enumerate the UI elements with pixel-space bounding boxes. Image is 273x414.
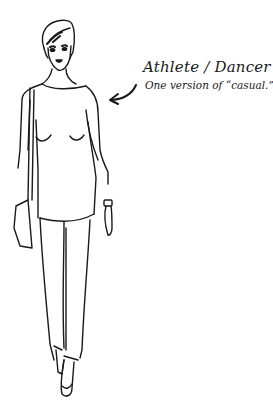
caption-block: Athlete / Dancer One version of “casual.… (143, 58, 273, 92)
hair-shape (42, 20, 74, 58)
face-shape (48, 45, 71, 70)
legs-outline (40, 218, 90, 396)
caption-title: Athlete / Dancer (143, 58, 273, 76)
curved-arrow-left-icon (110, 85, 136, 104)
shoulder-bag (14, 88, 34, 248)
caption-subtitle: One version of “casual.” (145, 78, 273, 92)
torso-outline (18, 69, 112, 235)
